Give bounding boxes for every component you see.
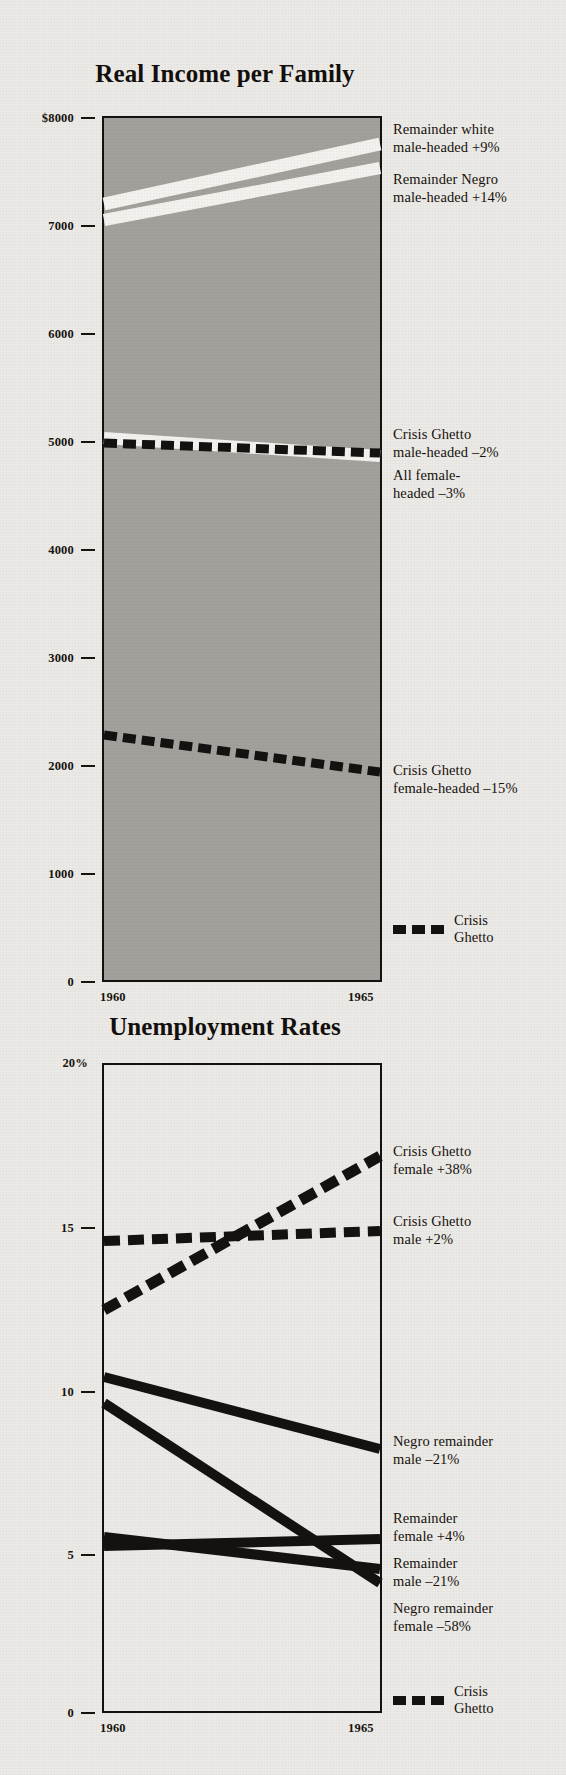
chart2-annotation-negro-remainder-male: Negro remainder male –21% xyxy=(393,1433,565,1468)
chart2-annotation-crisis-ghetto-female: Crisis Ghetto female +38% xyxy=(393,1143,561,1178)
figure-page: Real Income per Family $8000 7000 6000 5… xyxy=(0,0,566,1775)
series-crisis-ghetto-female xyxy=(104,1156,380,1310)
chart2-annotation-remainder-female: Remainder female +4% xyxy=(393,1510,561,1545)
chart2-annotation-negro-remainder-female: Negro remainder female –58% xyxy=(393,1600,565,1635)
chart2-annotation-remainder-male: Remainder male –21% xyxy=(393,1555,561,1590)
chart2-series-layer xyxy=(0,0,566,1775)
chart2-annotation-crisis-ghetto-male: Crisis Ghetto male +2% xyxy=(393,1213,561,1248)
chart2-legend-label: Crisis Ghetto xyxy=(454,1683,493,1718)
chart2-xtick-1960: 1960 xyxy=(100,1721,126,1736)
chart2-legend: Crisis Ghetto xyxy=(393,1683,493,1718)
dashed-line-icon xyxy=(393,1696,445,1705)
series-negro-remainder-male xyxy=(104,1377,380,1449)
chart2-xtick-1965: 1965 xyxy=(348,1721,374,1736)
